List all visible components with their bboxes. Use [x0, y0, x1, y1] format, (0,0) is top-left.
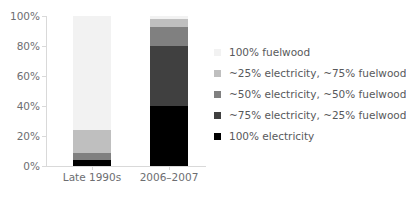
y-tick-mark: [42, 76, 46, 77]
legend-swatch-icon: [214, 49, 221, 56]
y-tick-label: 100%: [10, 11, 40, 22]
legend-item[interactable]: 100% fuelwood: [214, 42, 406, 63]
legend-item[interactable]: 100% electricity: [214, 126, 406, 147]
bar-1: [73, 16, 111, 166]
y-tick-mark: [42, 16, 46, 17]
legend-swatch-icon: [214, 91, 221, 98]
x-tick-mark: [92, 166, 93, 170]
bar-segment: [150, 106, 188, 166]
legend-swatch-icon: [214, 133, 221, 140]
y-tick-label: 0%: [23, 161, 40, 172]
plot-area: 0%20%40%60%80%100% Late 1990s2006–2007: [46, 16, 206, 166]
y-axis-line: [46, 16, 47, 166]
y-tick-label: 60%: [17, 71, 40, 82]
legend-swatch-icon: [214, 70, 221, 77]
bar-segment: [150, 19, 188, 27]
bar-2: [150, 16, 188, 166]
legend-item[interactable]: ~75% electricity, ~25% fuelwood: [214, 105, 406, 126]
legend-item[interactable]: ~25% electricity, ~75% fuelwood: [214, 63, 406, 84]
y-tick-mark: [42, 46, 46, 47]
x-tick-label: Late 1990s: [63, 172, 121, 183]
bar-segment: [150, 16, 188, 19]
legend-item-label: ~75% electricity, ~25% fuelwood: [229, 110, 406, 121]
y-tick-mark: [42, 166, 46, 167]
bar-segment: [150, 27, 188, 47]
x-axis-line: [46, 166, 206, 167]
bar-segment: [73, 16, 111, 130]
y-tick-label: 40%: [17, 101, 40, 112]
legend-item-label: ~50% electricity, ~50% fuelwood: [229, 89, 406, 100]
bar-segment: [73, 130, 111, 153]
legend-item[interactable]: ~50% electricity, ~50% fuelwood: [214, 84, 406, 105]
legend-item-label: 100% electricity: [229, 131, 314, 142]
bar-segment: [73, 153, 111, 161]
legend-item-label: ~25% electricity, ~75% fuelwood: [229, 68, 406, 79]
legend-item-label: 100% fuelwood: [229, 47, 310, 58]
y-tick-mark: [42, 106, 46, 107]
legend-swatch-icon: [214, 112, 221, 119]
y-tick-label: 20%: [17, 131, 40, 142]
chart-legend: 100% fuelwood~25% electricity, ~75% fuel…: [214, 42, 406, 147]
x-tick-mark: [169, 166, 170, 170]
x-tick-label: 2006–2007: [140, 172, 199, 183]
y-tick-label: 80%: [17, 41, 40, 52]
bar-segment: [150, 46, 188, 106]
y-tick-mark: [42, 136, 46, 137]
